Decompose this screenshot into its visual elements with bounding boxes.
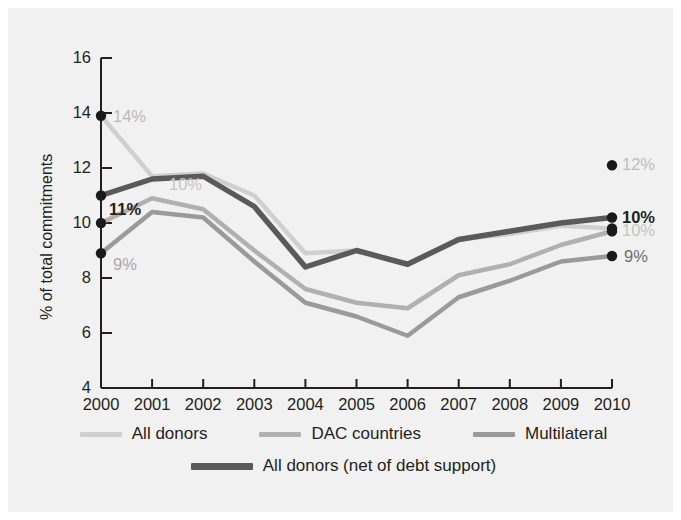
x-tick-label: 2008 xyxy=(482,395,538,414)
y-tick-label: 16 xyxy=(55,48,91,67)
x-tick-label: 2006 xyxy=(380,395,436,414)
chart-series xyxy=(101,116,612,336)
chart-axes xyxy=(101,58,612,388)
y-tick-label: 10 xyxy=(55,213,91,232)
chart-legend: All donorsDAC countriesMultilateral All … xyxy=(8,424,673,476)
chart-figure: % of total commitments 46810121416200020… xyxy=(0,0,681,520)
legend-item[interactable]: Multilateral xyxy=(473,424,607,444)
legend-color-swatch xyxy=(80,432,122,437)
x-tick-label: 2001 xyxy=(124,395,180,414)
legend-color-swatch xyxy=(473,432,515,437)
legend-item[interactable]: All donors (net of debt support) xyxy=(191,456,496,476)
x-tick-label: 2010 xyxy=(584,395,640,414)
legend-label: Multilateral xyxy=(525,424,607,444)
legend-color-swatch xyxy=(259,432,301,437)
x-tick-label: 2003 xyxy=(226,395,282,414)
data-point-label: 14% xyxy=(113,107,146,126)
data-point-label: 11% xyxy=(109,200,141,219)
legend-label: DAC countries xyxy=(311,424,421,444)
legend-row-primary: All donorsDAC countriesMultilateral xyxy=(8,424,673,444)
legend-color-swatch xyxy=(191,463,253,470)
legend-label: All donors xyxy=(132,424,208,444)
x-tick-label: 2000 xyxy=(73,395,129,414)
data-point-label: 12% xyxy=(622,155,655,174)
data-point-label: 10% xyxy=(622,221,655,240)
legend-row-secondary: All donors (net of debt support) xyxy=(8,456,673,476)
y-tick-label: 6 xyxy=(55,323,91,342)
x-tick-label: 2002 xyxy=(175,395,231,414)
x-tick-label: 2007 xyxy=(431,395,487,414)
y-tick-label: 14 xyxy=(55,103,91,122)
x-tick-label: 2005 xyxy=(329,395,385,414)
x-tick-label: 2009 xyxy=(533,395,589,414)
x-tick-label: 2004 xyxy=(277,395,333,414)
legend-item[interactable]: DAC countries xyxy=(259,424,421,444)
data-point-label: 10% xyxy=(169,175,202,194)
data-point-label: 9% xyxy=(624,247,648,266)
legend-item[interactable]: All donors xyxy=(80,424,208,444)
legend-label: All donors (net of debt support) xyxy=(263,456,496,476)
y-tick-label: 12 xyxy=(55,158,91,177)
data-point-label: 9% xyxy=(113,255,137,274)
y-tick-label: 8 xyxy=(55,268,91,287)
